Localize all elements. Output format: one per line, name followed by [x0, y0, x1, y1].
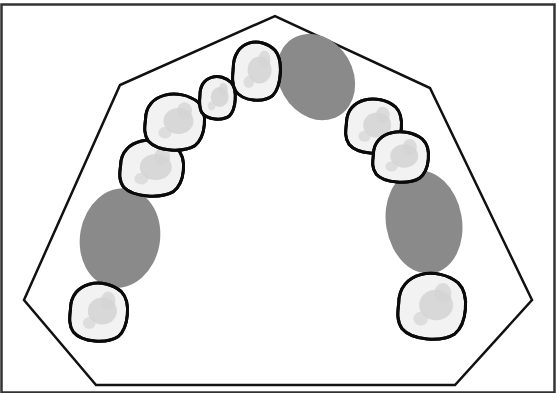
tooth-left-molar — [70, 283, 128, 341]
tooth-right-molar — [398, 273, 466, 339]
dental-arch-diagram — [0, 0, 556, 393]
tooth-right-premolar-2 — [373, 132, 429, 182]
diagram-frame — [0, 0, 556, 393]
tooth-left-central-incisor — [233, 42, 281, 100]
tooth-left-premolar-1 — [145, 94, 205, 150]
tooth-left-lateral-incisor — [199, 77, 235, 120]
